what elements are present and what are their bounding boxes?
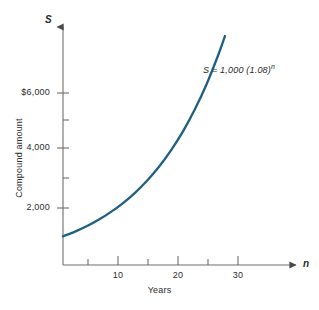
y-tick-label-6000: $6,000 [6, 87, 50, 97]
compound-interest-figure: S n $6,000 4,000 2,000 10 20 30 Compound… [0, 0, 319, 310]
y-tick-label-4000: 4,000 [6, 142, 50, 152]
compound-amount-curve [63, 36, 225, 236]
x-axis-symbol: n [303, 258, 309, 269]
y-axis-symbol: S [45, 14, 52, 25]
x-axis-label: Years [0, 285, 319, 295]
x-tick-label-30: 30 [223, 270, 253, 280]
x-tick-label-20: 20 [163, 270, 193, 280]
y-axis-label: Compound amount [14, 103, 24, 213]
equation-exponent: n [271, 63, 275, 70]
y-tick-label-2000: 2,000 [6, 202, 50, 212]
equation-text: S = 1,000 (1.08) [203, 65, 271, 75]
chart-plot-area [0, 0, 319, 310]
curve-equation-annotation: S = 1,000 (1.08)n [203, 63, 275, 75]
x-tick-label-10: 10 [103, 270, 133, 280]
